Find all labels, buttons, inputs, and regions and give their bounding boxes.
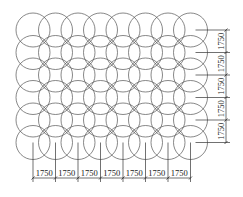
dimension-label: 1750 — [81, 168, 98, 178]
circle — [39, 103, 73, 137]
circle — [106, 81, 140, 115]
dimension-label: 1750 — [171, 168, 188, 178]
circle — [61, 13, 95, 47]
circle — [106, 36, 140, 70]
circle — [106, 13, 140, 47]
circle — [129, 81, 163, 115]
circle — [16, 58, 50, 92]
circle — [84, 103, 118, 137]
vertical-dimension-chain: 17501750175017501750 — [196, 29, 231, 145]
circle — [16, 36, 50, 70]
dimension-label: 1750 — [216, 100, 226, 117]
circle — [16, 81, 50, 115]
circle — [61, 58, 95, 92]
horizontal-dimension-chain: 1750175017501750175017501750 — [32, 143, 193, 183]
circle — [84, 81, 118, 115]
circle — [61, 103, 95, 137]
circle — [84, 13, 118, 47]
circle — [84, 36, 118, 70]
dimension-label: 1750 — [216, 33, 226, 50]
circle — [39, 13, 73, 47]
circle — [151, 36, 185, 70]
dimension-label: 1750 — [216, 123, 226, 140]
circle — [61, 81, 95, 115]
dimension-label: 1750 — [126, 168, 143, 178]
dimension-label: 1750 — [58, 168, 75, 178]
circle — [39, 36, 73, 70]
circle — [129, 58, 163, 92]
circle — [16, 103, 50, 137]
circle — [61, 36, 95, 70]
circle — [129, 36, 163, 70]
circle — [39, 58, 73, 92]
circle — [16, 13, 50, 47]
dimension-label: 1750 — [216, 55, 226, 72]
circle — [39, 81, 73, 115]
circle — [151, 103, 185, 137]
dimension-label: 1750 — [103, 168, 120, 178]
dimension-label: 1750 — [148, 168, 165, 178]
circle-grid-drawing: 1750175017501750175017501750 17501750175… — [0, 0, 243, 197]
circle — [129, 103, 163, 137]
circle — [129, 13, 163, 47]
circle — [84, 58, 118, 92]
circle — [151, 81, 185, 115]
circle — [151, 13, 185, 47]
dimension-label: 1750 — [216, 78, 226, 95]
circle-grid — [16, 13, 208, 160]
circle — [151, 58, 185, 92]
circle — [106, 103, 140, 137]
dimension-label: 1750 — [36, 168, 53, 178]
circle — [106, 58, 140, 92]
